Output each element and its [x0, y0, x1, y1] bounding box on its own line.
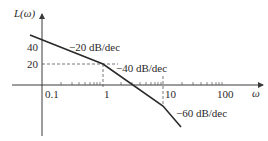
x-tick-1: 1: [104, 88, 110, 100]
x-axis-label: ω: [252, 87, 260, 99]
y-tick-20: 20: [27, 58, 39, 70]
slope-label-minus-40: −40 dB/dec: [116, 62, 167, 74]
x-tick-0.1: 0.1: [45, 88, 59, 100]
y-tick-40: 40: [27, 41, 39, 53]
slope-label-minus-60: −60 dB/dec: [176, 107, 227, 119]
slope-label-minus-20: −20 dB/dec: [69, 41, 120, 53]
x-tick-100: 100: [217, 88, 234, 100]
x-tick-10: 10: [165, 88, 177, 100]
y-axis-label: L(ω): [13, 7, 36, 20]
bode-plot: L(ω) 40 20 0.1 1 10 100 ω −20 dB/dec −40…: [0, 0, 268, 141]
